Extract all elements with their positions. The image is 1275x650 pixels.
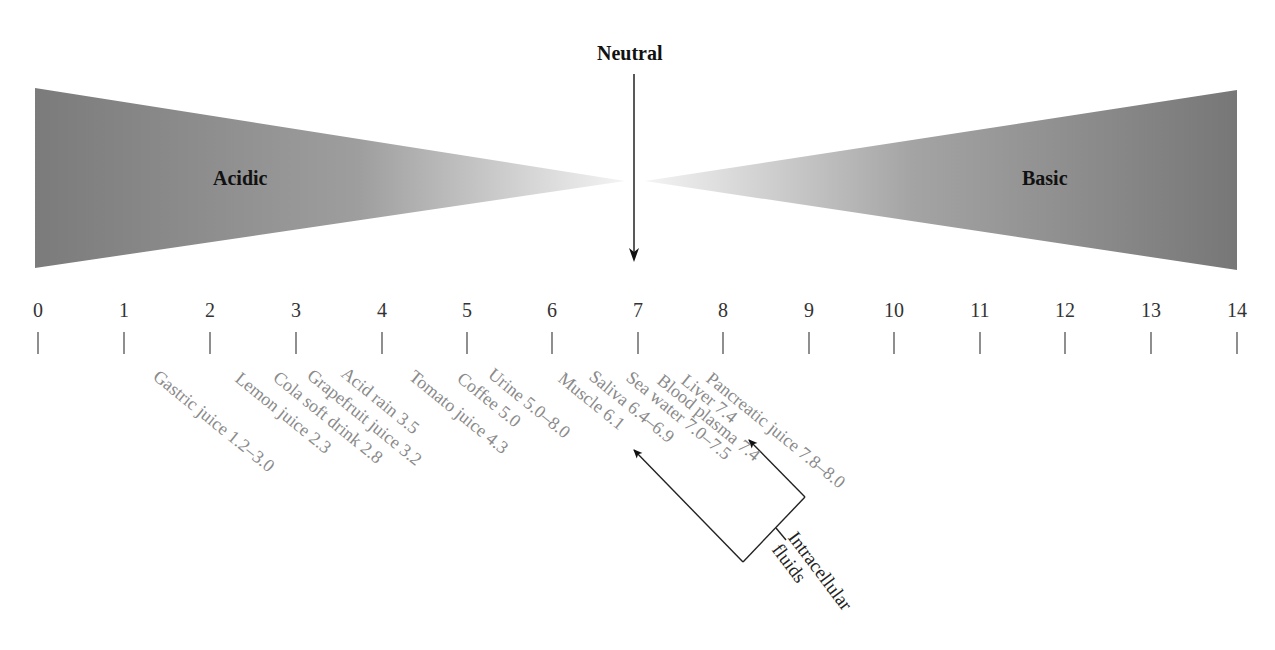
tick-label-1: 1 bbox=[104, 299, 144, 322]
acidic-wedge bbox=[35, 88, 625, 268]
tick-label-11: 11 bbox=[960, 299, 1000, 322]
tick-label-9: 9 bbox=[789, 299, 829, 322]
tick-label-13: 13 bbox=[1131, 299, 1171, 322]
basic-wedge bbox=[645, 90, 1237, 270]
tick-label-3: 3 bbox=[276, 299, 316, 322]
tick-label-12: 12 bbox=[1045, 299, 1085, 322]
neutral-label: Neutral bbox=[597, 42, 663, 65]
ph-scale-diagram: Neutral Acidic Basic 0 1 2 3 4 5 6 7 8 9… bbox=[0, 0, 1275, 650]
tick-label-5: 5 bbox=[447, 299, 487, 322]
diagram-graphics bbox=[0, 0, 1275, 650]
tick-label-6: 6 bbox=[532, 299, 572, 322]
tick-label-0: 0 bbox=[18, 299, 58, 322]
tick-label-14: 14 bbox=[1217, 299, 1257, 322]
acidic-label: Acidic bbox=[213, 167, 267, 190]
tick-label-8: 8 bbox=[703, 299, 743, 322]
basic-label: Basic bbox=[1022, 167, 1068, 190]
tick-label-7: 7 bbox=[618, 299, 658, 322]
axis-ticks bbox=[38, 332, 1237, 354]
tick-label-10: 10 bbox=[874, 299, 914, 322]
tick-label-2: 2 bbox=[190, 299, 230, 322]
tick-label-4: 4 bbox=[362, 299, 402, 322]
